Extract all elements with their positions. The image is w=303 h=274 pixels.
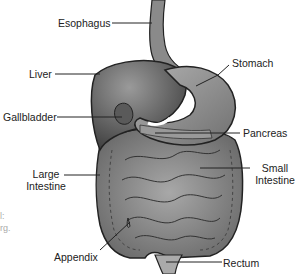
label-small-intestine-line2: Intestine [250, 174, 300, 186]
label-stomach: Stomach [232, 57, 273, 69]
large-intestine-organ [96, 127, 242, 258]
label-large-intestine-line2: Intestine [26, 180, 66, 192]
label-appendix: Appendix [54, 251, 98, 263]
label-rectum: Rectum [223, 257, 259, 269]
rectum-organ [155, 255, 182, 274]
label-small-intestine: Small Intestine [250, 162, 300, 186]
label-liver: Liver [29, 68, 52, 80]
label-large-intestine: Large Intestine [26, 168, 66, 192]
gallbladder-organ [115, 103, 133, 124]
label-small-intestine-line1: Small [250, 162, 300, 174]
cropped-caption-line2: rg. [0, 223, 11, 234]
cropped-caption-line1: l: [0, 211, 5, 222]
label-gallbladder: Gallbladder [3, 111, 57, 123]
label-large-intestine-line1: Large [26, 168, 66, 180]
label-esophagus: Esophagus [58, 17, 111, 29]
label-pancreas: Pancreas [243, 127, 287, 139]
